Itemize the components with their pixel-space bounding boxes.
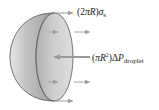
surface-tension-label: (2πR)σs [77,8,106,19]
pressure-force-label: (πR2)ΔPdroplet [92,52,144,65]
